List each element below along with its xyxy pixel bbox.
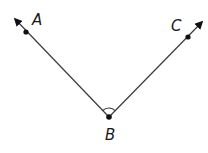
label-c: C (171, 17, 182, 35)
ray-ba (15, 19, 109, 117)
label-a: A (31, 11, 42, 29)
point-a (23, 29, 28, 34)
label-b: B (105, 126, 115, 144)
angle-arc (103, 108, 116, 111)
angle-diagram: A C B (0, 0, 208, 153)
point-b (106, 114, 112, 120)
point-c (185, 34, 190, 39)
